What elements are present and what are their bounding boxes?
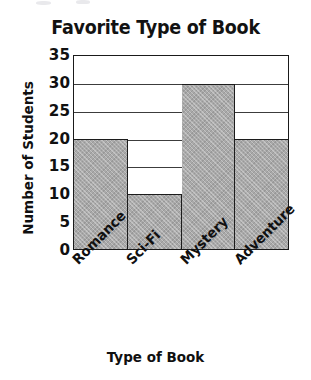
y-axis-tick-label: 5 [37, 214, 70, 231]
y-axis-tick-label: 35 [37, 47, 70, 64]
y-axis-tick-label: 10 [37, 186, 70, 203]
y-axis-tick-label: 0 [37, 242, 70, 259]
bar-chart-figure: Favorite Type of Book Number of Students… [0, 0, 311, 380]
scan-artifact [76, 0, 90, 4]
y-axis-tick-label: 25 [37, 103, 70, 120]
x-axis-tick-slot: Romance [73, 250, 127, 345]
y-axis-tick-labels: 35302520151050 [30, 0, 70, 380]
x-axis-tick-slot: Mystery [181, 250, 235, 345]
x-axis-tick-slot: Adventure [235, 250, 289, 345]
y-axis-tick-label: 20 [37, 131, 70, 148]
y-axis-tick-label: 30 [37, 75, 70, 92]
y-axis-tick-label: 15 [37, 158, 70, 175]
x-axis-tick-slot: Sci-Fi [127, 250, 181, 345]
x-axis-title: Type of Book [11, 349, 300, 365]
x-axis-tick-labels: RomanceSci-FiMysteryAdventure [73, 250, 289, 345]
